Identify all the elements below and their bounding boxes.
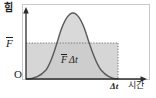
impulse-force-symbol: F [61,54,67,65]
x-axis-label: 시간 [128,81,144,90]
impulse-dt-symbol: Δt [69,54,78,65]
y-axis-label: 힘 [4,3,13,13]
origin-label: O [14,69,22,80]
average-force-tick-label: F [6,37,13,49]
force-time-impulse-figure: 힘 F O Δt 시간 FΔt [0,0,156,98]
duration-tick-label: Δt [110,82,118,91]
average-force-symbol: F [6,37,13,49]
y-axis-arrowhead [23,7,29,14]
impulse-area-label: FΔt [61,54,78,65]
